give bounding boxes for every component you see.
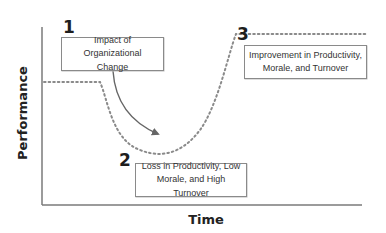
stage-3-number: 3	[237, 26, 249, 43]
stage-3-box: Improvement in Productivity, Morale, and…	[244, 45, 367, 79]
stage-1-label: Impact of Organizational Change	[70, 34, 156, 73]
stage-1-number: 1	[63, 19, 75, 36]
stage-2-label: Loss in Productivity, Low Morale, and Hi…	[140, 160, 242, 199]
x-axis-label: Time	[188, 212, 224, 227]
stage-3-label: Improvement in Productivity, Morale, and…	[249, 49, 362, 75]
stage-1-box: Impact of Organizational Change	[61, 37, 164, 71]
impact-arrow	[113, 71, 158, 134]
y-axis-label: Performance	[15, 66, 30, 160]
stage-2-box: Loss in Productivity, Low Morale, and Hi…	[135, 163, 247, 197]
stage-2-number: 2	[119, 152, 131, 169]
